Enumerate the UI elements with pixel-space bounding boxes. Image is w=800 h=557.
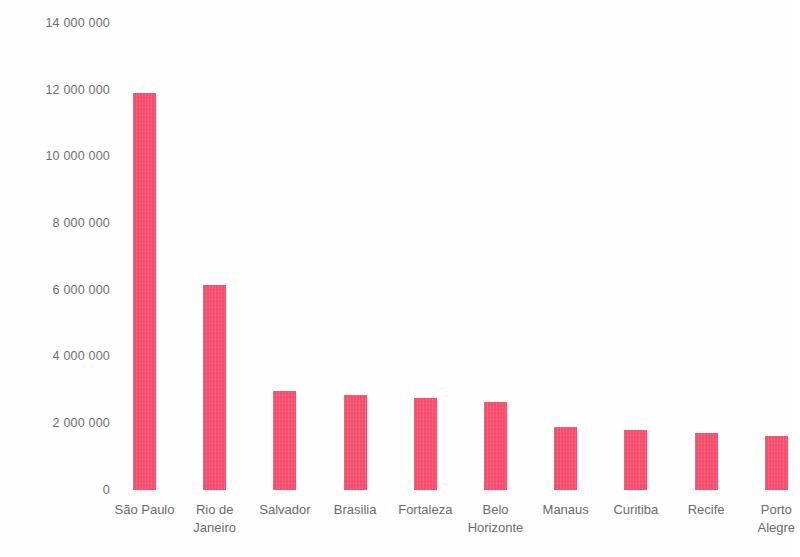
bar: [624, 430, 647, 490]
x-tick-label-line: Alegre: [721, 519, 800, 537]
bar: [414, 398, 437, 490]
bar: [203, 285, 226, 490]
bar: [344, 395, 367, 490]
x-tick-label-line: Recife: [688, 502, 725, 517]
x-tick-label-line: Horizonte: [441, 519, 551, 537]
bar: [273, 391, 296, 490]
x-tick-label-line: Porto: [761, 502, 792, 517]
bar: [765, 436, 788, 490]
bar: [554, 427, 577, 490]
bar: [484, 402, 507, 490]
x-tick-label: PortoAlegre: [721, 501, 800, 537]
x-tick-label-line: Belo: [482, 502, 508, 517]
x-tick-label-line: Janeiro: [160, 519, 270, 537]
x-tick-label-line: Rio de: [196, 502, 234, 517]
bar: [133, 93, 156, 490]
bar: [695, 433, 718, 490]
